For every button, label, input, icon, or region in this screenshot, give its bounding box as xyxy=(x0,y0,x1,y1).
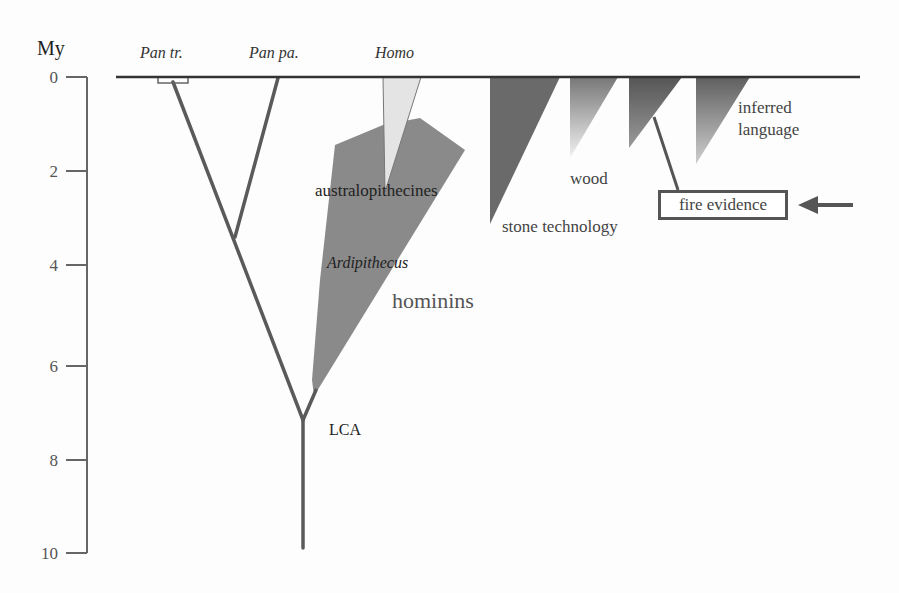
fire-connector-line xyxy=(654,117,678,190)
label-hominins: hominins xyxy=(392,290,474,312)
tick-label-4: 4 xyxy=(28,257,58,274)
tick-label-6: 6 xyxy=(28,358,58,375)
tick-label-2: 2 xyxy=(28,163,58,180)
tree-branches xyxy=(173,78,316,548)
label-homo: Homo xyxy=(375,45,414,61)
label-ardipithecus: Ardipithecus xyxy=(327,255,408,271)
label-pan-tr: Pan tr. xyxy=(140,45,183,61)
label-wood: wood xyxy=(570,170,608,187)
label-stone-technology: stone technology xyxy=(502,218,618,235)
axis-unit-label: My xyxy=(37,38,65,58)
tick-label-0: 0 xyxy=(28,69,58,86)
tick-label-8: 8 xyxy=(28,452,58,469)
wood-wedge xyxy=(570,77,618,158)
label-inferred: inferred xyxy=(738,99,792,116)
fire-evidence-box: fire evidence xyxy=(658,190,788,220)
label-pan-pa: Pan pa. xyxy=(249,45,299,61)
y-axis xyxy=(66,77,87,553)
tick-label-10: 10 xyxy=(28,545,58,562)
label-australopithecines: australopithecines xyxy=(315,182,438,199)
label-lca: LCA xyxy=(329,422,361,438)
arrow-icon xyxy=(798,196,853,214)
label-fire-evidence: fire evidence xyxy=(679,195,767,215)
stone-technology-wedge xyxy=(490,77,560,224)
label-language: language xyxy=(738,121,799,138)
fire-evidence-wedge xyxy=(629,77,682,148)
